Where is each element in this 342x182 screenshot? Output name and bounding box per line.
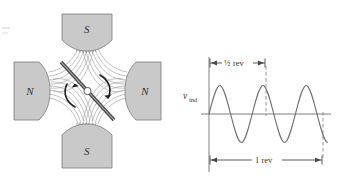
pole-piece-left: N <box>14 62 50 120</box>
magnetic-field-lines <box>49 48 127 124</box>
half-rev-label: rev <box>233 58 245 68</box>
y-axis-label-main: v <box>183 91 188 101</box>
page-edge-mark <box>2 28 10 33</box>
half-rev-fraction: ½ <box>224 58 231 68</box>
one-rev-dimension-label: 1 rev <box>252 153 282 166</box>
pole-label-bottom: S <box>84 145 90 157</box>
y-axis-label: v ind <box>183 91 198 103</box>
half-rev-dimension-label: ½ rev <box>222 56 253 69</box>
pole-piece-top: S <box>62 14 112 51</box>
one-rev-label: 1 rev <box>255 155 273 165</box>
pole-label-right: N <box>140 85 149 97</box>
pole-label-left: N <box>25 85 34 97</box>
four-pole-machine-diagram: S S N N <box>2 14 161 168</box>
induced-voltage-plot: v ind ½ rev <box>183 56 331 172</box>
pole-piece-right: N <box>125 62 161 120</box>
figure-root: S S N N <box>0 0 342 182</box>
pole-piece-bottom: S <box>62 124 112 168</box>
pole-label-top: S <box>84 23 90 35</box>
rotor-shaft <box>84 87 91 94</box>
y-axis-label-subscript: ind <box>189 96 198 103</box>
physics-figure: S S N N <box>0 0 342 182</box>
